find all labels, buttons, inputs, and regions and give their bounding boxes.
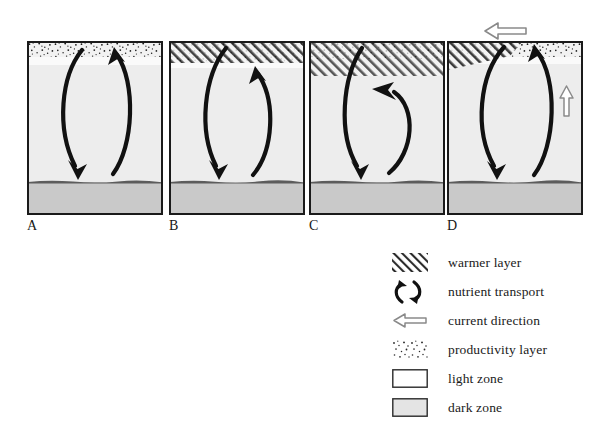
legend-item-dark-zone: dark zone [392,393,597,422]
panel-b: B [170,42,304,214]
panel-b-diagram [170,42,304,214]
hatch-pattern-icon [392,253,428,272]
legend-label-nutrient-transport: nutrient transport [448,284,544,300]
panel-d-label: D [447,218,457,234]
panel-c: C [310,42,444,214]
panel-a-productivity-layer [28,42,162,57]
legend-label-light-zone: light zone [448,371,503,387]
light-zone-swatch-icon [392,369,428,388]
panel-b-label: B [169,218,179,234]
panel-c-dark-zone [310,182,444,214]
panel-d-dark-zone [448,182,582,214]
hollow-left-arrow-icon [392,311,428,330]
panel-a-dark-zone [28,182,162,214]
panel-a-surface-band [28,56,162,65]
current-direction-left-arrow [482,19,530,43]
dark-zone-swatch-icon [392,398,428,417]
figure-canvas: A [0,0,605,436]
panel-d: D [448,42,582,214]
legend-item-current-direction: current direction [392,306,597,335]
legend-item-productivity-layer: productivity layer [392,335,597,364]
legend-label-warmer-layer: warmer layer [448,255,521,271]
panel-a-label: A [27,218,37,234]
panel-d-diagram [448,42,582,214]
panel-c-label: C [309,218,319,234]
nutrient-transport-icon [392,282,428,301]
panel-a: A [28,42,162,214]
panel-a-diagram [28,42,162,214]
legend-item-nutrient-transport: nutrient transport [392,277,597,306]
legend-item-light-zone: light zone [392,364,597,393]
legend: warmer layer nutrient transport current … [392,248,597,422]
legend-item-warmer-layer: warmer layer [392,248,597,277]
legend-label-productivity-layer: productivity layer [448,342,547,358]
legend-label-dark-zone: dark zone [448,400,502,416]
panel-c-diagram [310,42,444,214]
stipple-pattern-icon [392,340,428,359]
panel-b-dark-zone [170,182,304,214]
legend-label-current-direction: current direction [448,313,540,329]
panel-b-warmer-layer [170,42,304,63]
panel-c-warmer-layer-overlap [310,42,444,59]
